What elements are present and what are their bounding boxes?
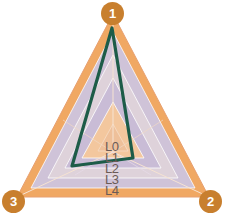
radar-chart: L0 L1 L2 L3 L4 1 2 3 [0, 0, 226, 218]
vertex-marker-1[interactable]: 1 [101, 2, 124, 25]
radar-chart-canvas [0, 0, 226, 218]
vertex-marker-2[interactable]: 2 [199, 190, 222, 213]
vertex-marker-3[interactable]: 3 [2, 190, 25, 213]
